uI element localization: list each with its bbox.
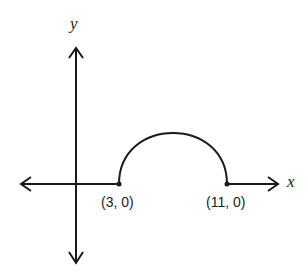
point-label-3-0: (3, 0) [101, 194, 134, 210]
x-axis-label: x [287, 172, 295, 192]
x-axis [21, 177, 278, 191]
point-3-0 [117, 182, 122, 187]
semicircle-curve [119, 133, 227, 184]
point-label-11-0: (11, 0) [206, 194, 245, 210]
y-axis [69, 48, 83, 263]
graph [0, 0, 307, 273]
point-11-0 [225, 182, 230, 187]
y-axis-label: y [70, 14, 78, 34]
